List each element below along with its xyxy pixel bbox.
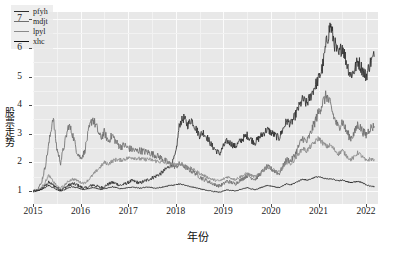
x-axis-tick-mark [128,204,129,207]
plot-panel [33,12,378,204]
y-axis-tick-label: 7 [0,14,22,24]
chart-figure: 股票走势 pfyhmdjtlpylxhc 年份 1234567201520162… [0,0,396,253]
y-axis-tick-label: 2 [0,157,22,167]
y-axis-tick-label: 1 [0,186,22,196]
y-axis-tick-mark [29,48,32,49]
x-axis-label: 年份 [0,228,396,244]
x-axis-tick-label: 2016 [61,207,101,217]
x-axis-tick-label: 2020 [251,207,291,217]
series-line-pfyh [33,23,374,192]
series-line-lpyl [33,137,374,192]
x-axis-tick-mark [33,204,34,207]
x-axis-tick-label: 2022 [346,207,386,217]
legend-item-lpyl[interactable]: lpyl [14,27,48,36]
x-axis-tick-label: 2018 [156,207,196,217]
x-axis-tick-label: 2019 [203,207,243,217]
x-axis-tick-mark [366,204,367,207]
legend-label: lpyl [33,28,45,36]
series-lines [33,12,378,204]
y-axis-tick-mark [29,134,32,135]
x-axis-tick-label: 2015 [13,207,53,217]
y-axis-tick-label: 5 [0,72,22,82]
legend-label: pfyh [33,8,48,16]
x-axis-tick-mark [176,204,177,207]
y-axis-tick-mark [29,77,32,78]
y-axis-tick-label: 4 [0,100,22,110]
legend-swatch-pfyh [14,11,29,12]
x-axis-tick-mark [223,204,224,207]
legend-label: mdjt [33,18,48,26]
x-axis-tick-mark [319,204,320,207]
y-axis-tick-mark [29,105,32,106]
x-axis-tick-label: 2017 [108,207,148,217]
legend-label: xhc [33,38,45,46]
y-axis-tick-mark [29,162,32,163]
x-axis-tick-mark [271,204,272,207]
y-axis-tick-label: 6 [0,43,22,53]
x-axis-tick-mark [81,204,82,207]
y-axis-tick-mark [29,19,32,20]
y-axis-tick-label: 3 [0,129,22,139]
legend-swatch-lpyl [14,31,29,32]
y-axis-tick-mark [29,191,32,192]
x-axis-tick-label: 2021 [299,207,339,217]
